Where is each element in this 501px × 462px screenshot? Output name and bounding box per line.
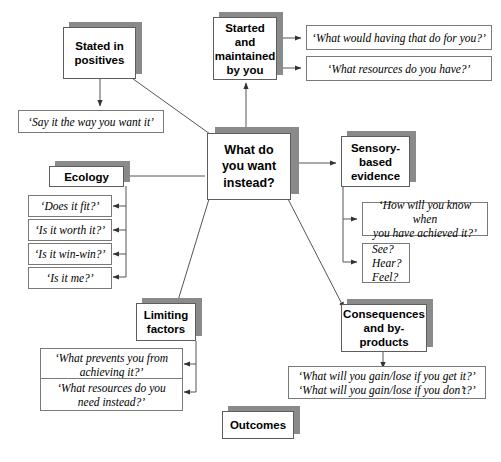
- node-ecology-label: Ecology: [49, 166, 124, 187]
- node-consequences-and-by-products[interactable]: Consequences and by-products: [341, 304, 427, 352]
- outcomes-title-label: Outcomes: [222, 411, 294, 439]
- edge-center-to-limiting: [176, 199, 209, 307]
- node-started-and-maintained[interactable]: Started and maintained by you: [213, 17, 277, 80]
- node-limiting-factors[interactable]: Limiting factors: [136, 303, 196, 341]
- node-outcomes-title[interactable]: Outcomes: [222, 411, 294, 439]
- leaf-started-0: ‘What would having that do for you?’: [306, 25, 492, 50]
- leaf-sensory-1: See? Hear? Feel?: [362, 243, 410, 283]
- leaf-ecology-3: ‘Is it me?’: [28, 267, 112, 289]
- leaf-sensory-0: ‘How will you know when you have achieve…: [362, 202, 488, 236]
- node-sensory-based-evidence-label: Sensory- based evidence: [341, 136, 410, 187]
- leaf-limiting-0: ‘What prevents you from achieving it?’: [40, 348, 183, 381]
- leaf-limiting-1: ‘What resources do you need instead?’: [40, 378, 183, 411]
- leaf-ecology-0: ‘Does it fit?’: [28, 195, 112, 217]
- node-stated-in-positives-label: Stated in positives: [63, 27, 136, 79]
- node-consequences-and-by-products-label: Consequences and by-products: [341, 304, 427, 352]
- node-started-and-maintained-label: Started and maintained by you: [213, 17, 277, 80]
- node-sensory-based-evidence[interactable]: Sensory- based evidence: [341, 136, 410, 187]
- leaf-ecology-1: ‘Is it worth it?’: [28, 219, 112, 241]
- node-center-label: What do you want instead?: [207, 133, 291, 200]
- edge-center-to-consequences: [288, 199, 344, 308]
- leaf-consequences-0: ‘What will you gain/lose if you get it?’…: [288, 366, 486, 399]
- node-ecology[interactable]: Ecology: [49, 166, 124, 187]
- leaf-stated-0: ‘Say it the way you want it’: [18, 110, 164, 133]
- leaf-started-1: ‘What resources do you have?’: [306, 56, 492, 81]
- leaf-ecology-2: ‘Is it win-win?’: [28, 243, 112, 265]
- node-stated-in-positives[interactable]: Stated in positives: [63, 27, 136, 79]
- node-center[interactable]: What do you want instead?: [207, 133, 291, 200]
- mind-map-diagram: What do you want instead? Started and ma…: [0, 0, 501, 462]
- node-limiting-factors-label: Limiting factors: [136, 303, 196, 341]
